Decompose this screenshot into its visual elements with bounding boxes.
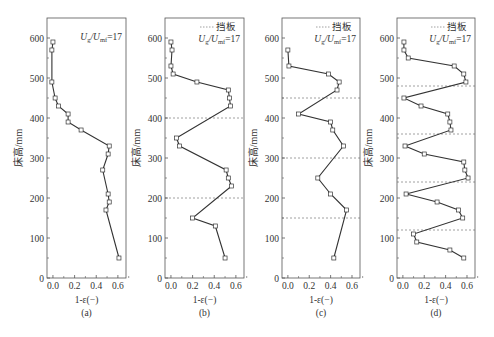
data-point-marker (223, 256, 227, 260)
data-point-marker (191, 216, 195, 220)
y-tick-label: 0 (39, 274, 44, 284)
data-point-marker (456, 208, 460, 212)
data-point-marker (448, 120, 452, 124)
data-point-marker (402, 48, 406, 52)
y-tick-label: 300 (265, 154, 280, 164)
data-point-marker (53, 96, 57, 100)
data-point-marker (297, 112, 301, 116)
y-tick-label: 600 (380, 34, 395, 44)
y-tick-label: 0 (274, 274, 279, 284)
legend-label: 挡板 (447, 21, 467, 32)
data-line (52, 42, 119, 258)
data-point-marker (50, 48, 54, 52)
legend-label: 挡板 (332, 21, 352, 32)
data-point-marker (195, 80, 199, 84)
velocity-ratio-annotation: Ug/Umf=17 (80, 32, 122, 43)
data-point-marker (56, 104, 60, 108)
data-point-marker (466, 176, 470, 180)
y-tick-label: 200 (380, 194, 395, 204)
data-point-marker (107, 144, 111, 148)
data-point-marker (287, 64, 291, 68)
panel-label: (b) (199, 308, 210, 319)
panel-label: (a) (81, 308, 92, 319)
y-tick-label: 0 (389, 274, 394, 284)
data-point-marker (402, 96, 406, 100)
data-point-marker (213, 224, 217, 228)
x-tick-label: 0.6 (230, 281, 242, 291)
data-point-marker (422, 152, 426, 156)
y-tick-label: 300 (148, 154, 163, 164)
x-tick-label: 0.0 (282, 281, 294, 291)
panel-b: 01002003004005006000.00.20.40.61-ε(−)(b)… (130, 18, 247, 319)
data-point-marker (224, 168, 228, 172)
x-tick-label: 0.0 (47, 281, 59, 291)
data-point-marker (226, 176, 230, 180)
data-point-marker (169, 64, 173, 68)
y-tick-label: 500 (30, 74, 45, 84)
data-point-marker (329, 192, 333, 196)
data-point-marker (169, 40, 173, 44)
data-point-marker (337, 80, 341, 84)
data-point-marker (178, 144, 182, 148)
data-point-marker (461, 216, 465, 220)
y-tick-label: 400 (30, 114, 45, 124)
x-tick-label: 0.6 (112, 281, 124, 291)
y-tick-label: 600 (265, 34, 280, 44)
data-line (171, 42, 232, 258)
x-axis-label: 1-ε(−) (309, 295, 333, 306)
x-tick-label: 0.4 (208, 281, 220, 291)
data-point-marker (316, 176, 320, 180)
y-tick-label: 100 (380, 234, 395, 244)
x-tick-label: 0.2 (187, 281, 199, 291)
y-tick-label: 100 (265, 234, 280, 244)
data-point-marker (449, 128, 453, 132)
panel-a: 01002003004005006000.00.20.40.61-ε(−)(a)… (12, 18, 129, 319)
data-point-marker (79, 128, 83, 132)
y-tick-label: 200 (30, 194, 45, 204)
panel-label: (c) (316, 308, 327, 319)
data-point-marker (404, 192, 408, 196)
x-tick-label: 0.0 (397, 281, 409, 291)
data-point-marker (464, 80, 468, 84)
x-tick-label: 0.4 (325, 281, 337, 291)
y-axis-label: 床高/mm (247, 129, 259, 168)
data-point-marker (462, 256, 466, 260)
data-point-marker (331, 128, 335, 132)
data-point-marker (448, 248, 452, 252)
data-point-marker (406, 56, 410, 60)
data-point-marker (227, 96, 231, 100)
y-tick-label: 100 (30, 234, 45, 244)
plot-frame (282, 18, 360, 278)
velocity-ratio-annotation: Ug/Umf=17 (314, 34, 356, 45)
data-point-marker (226, 88, 230, 92)
y-tick-label: 100 (148, 234, 163, 244)
data-point-marker (462, 160, 466, 164)
data-point-marker (106, 192, 110, 196)
data-point-marker (230, 184, 234, 188)
data-point-marker (452, 64, 456, 68)
data-point-marker (341, 144, 345, 148)
data-point-marker (419, 104, 423, 108)
data-point-marker (107, 200, 111, 204)
data-point-marker (329, 120, 333, 124)
data-point-marker (403, 144, 407, 148)
x-tick-label: 0.2 (69, 281, 81, 291)
data-point-marker (171, 72, 175, 76)
data-point-marker (50, 80, 54, 84)
y-tick-label: 500 (148, 74, 163, 84)
panel-label: (d) (430, 308, 441, 319)
data-point-marker (228, 104, 232, 108)
x-axis-label: 1-ε(−) (424, 295, 448, 306)
y-tick-label: 500 (380, 74, 395, 84)
data-point-marker (104, 208, 108, 212)
x-axis-label: 1-ε(−) (75, 295, 99, 306)
panel-d: 01002003004005006000.00.20.40.61-ε(−)(d)… (362, 18, 478, 319)
data-point-marker (402, 40, 406, 44)
legend-label: 挡板 (216, 21, 236, 32)
y-axis-label: 床高/mm (362, 129, 374, 168)
data-point-marker (332, 256, 336, 260)
data-point-marker (335, 88, 339, 92)
velocity-ratio-annotation: Ug/Umf=17 (198, 34, 240, 45)
y-tick-label: 400 (380, 114, 395, 124)
data-point-marker (435, 200, 439, 204)
